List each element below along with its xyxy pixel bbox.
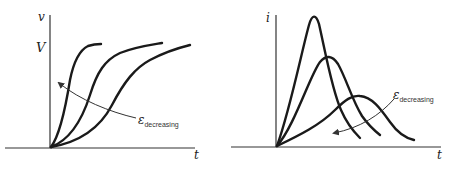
diagram-canvas: v V t εdecreasing i t εdecreasing bbox=[0, 0, 452, 171]
left-panel-voltage-plot: v V t εdecreasing bbox=[5, 10, 199, 162]
left-y-level-label: V bbox=[36, 40, 47, 55]
right-x-axis-label: t bbox=[437, 148, 442, 162]
voltage-curve-fast bbox=[51, 44, 101, 147]
right-y-axis-label: i bbox=[266, 11, 270, 25]
right-panel-current-plot: i t εdecreasing bbox=[231, 11, 442, 162]
left-y-axis-label: v bbox=[38, 10, 45, 24]
left-epsilon-annotation: εdecreasing bbox=[138, 113, 179, 129]
right-epsilon-annotation: εdecreasing bbox=[393, 88, 434, 104]
left-x-axis-label: t bbox=[194, 148, 199, 162]
left-epsilon-arrow bbox=[59, 83, 136, 118]
